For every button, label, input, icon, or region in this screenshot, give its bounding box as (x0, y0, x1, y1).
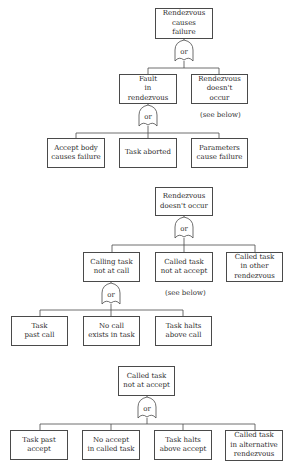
event-text: No accept (87, 436, 134, 446)
event-text: Task (25, 322, 55, 332)
event-task-halts-above-accept: Task halts above accept (154, 430, 212, 460)
connector-lines (0, 0, 295, 468)
gate-label: or (138, 405, 156, 413)
event-text: in other (234, 262, 275, 272)
event-accept-body-causes-failure: Accept body causes failure (47, 138, 105, 168)
gate-label: or (139, 113, 157, 121)
event-text: rendezvous (234, 272, 275, 282)
event-text: Called task (161, 258, 207, 268)
event-task-halts-above-call: Task halts above call (155, 316, 212, 346)
gate-label: or (102, 291, 120, 299)
fault-tree-diagram: or or or or or Rendezvous causes failure… (0, 0, 295, 468)
event-text: failure (163, 28, 206, 38)
gate-label: or (175, 225, 193, 233)
event-text: accept (22, 445, 55, 455)
event-text: cause failure (197, 153, 243, 163)
event-text: causes failure (51, 153, 100, 163)
event-text: Calling task (90, 258, 132, 268)
event-fault-in-rendezvous: Fault in rendezvous (119, 74, 177, 104)
event-task-aborted: Task aborted (119, 138, 177, 168)
event-text: in (128, 84, 169, 94)
event-text: Fault (128, 75, 169, 85)
event-called-task-not-at-accept-root: Called task not at accept (118, 366, 175, 396)
event-task-past-call: Task past call (11, 316, 68, 346)
event-text: Rendezvous (163, 9, 206, 19)
event-rendezvous-doesnt-occur: Rendezvous doesn't occur (191, 74, 248, 104)
see-below-note: (see below) (165, 289, 206, 298)
event-text: Parameters (197, 144, 243, 154)
event-text: not at accept (161, 267, 207, 277)
event-text: Task halts (160, 436, 207, 446)
event-called-task-in-alternative-rendezvous: Called task in alternative rendezvous (225, 430, 283, 461)
event-text: Rendezvous (160, 192, 208, 202)
event-text: rendezvous (230, 450, 278, 460)
event-calling-task-not-at-call: Calling task not at call (83, 252, 140, 282)
event-text: exists in task (88, 331, 134, 341)
event-no-call-exists-in-task: No call exists in task (83, 316, 140, 346)
event-text: Called task (123, 372, 169, 382)
event-text: Rendezvous (198, 75, 241, 85)
event-text: not at call (90, 267, 132, 277)
event-text: doesn't occur (160, 202, 208, 212)
event-text: Task aborted (125, 148, 171, 158)
event-text: causes (163, 19, 206, 29)
event-text: in alternative (230, 441, 278, 451)
see-below-note: (see below) (200, 111, 241, 120)
event-parameters-cause-failure: Parameters cause failure (191, 138, 248, 168)
event-rendezvous-doesnt-occur-root: Rendezvous doesn't occur (155, 187, 213, 216)
event-text: in called task (87, 445, 134, 455)
event-text: Called task (230, 431, 278, 441)
event-text: above accept (160, 445, 207, 455)
event-called-task-not-at-accept: Called task not at accept (155, 252, 213, 282)
event-text: Called task (234, 253, 275, 263)
event-text: Task past (22, 436, 55, 446)
event-text: occur (198, 94, 241, 104)
event-text: Task halts (166, 322, 202, 332)
event-text: doesn't (198, 84, 241, 94)
event-text: not at accept (123, 381, 169, 391)
event-text: above call (166, 331, 202, 341)
event-task-past-accept: Task past accept (10, 430, 68, 460)
event-text: Accept body (51, 144, 100, 154)
event-no-accept-in-called-task: No accept in called task (82, 430, 140, 460)
event-rendezvous-causes-failure: Rendezvous causes failure (155, 8, 213, 39)
event-called-task-in-other-rendezvous: Called task in other rendezvous (226, 252, 283, 282)
event-text: No call (88, 322, 134, 332)
event-text: rendezvous (128, 94, 169, 104)
gate-label: or (175, 48, 193, 56)
event-text: past call (25, 331, 55, 341)
